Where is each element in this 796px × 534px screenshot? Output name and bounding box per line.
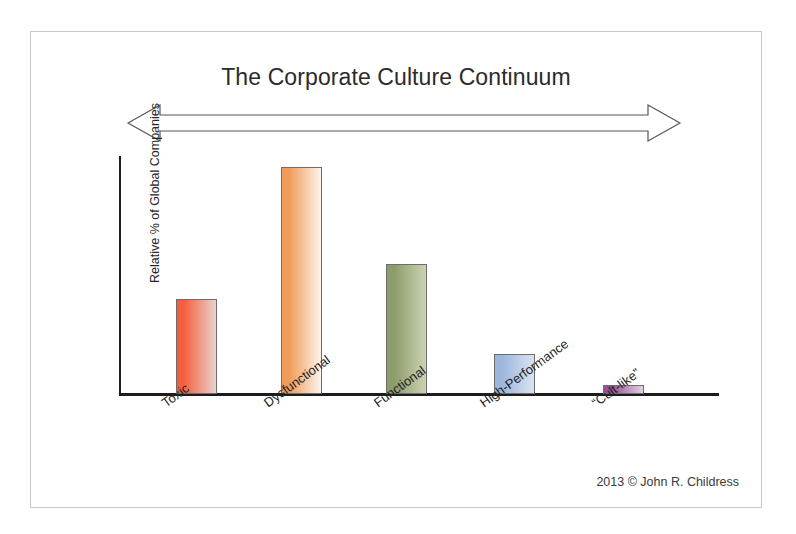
plot-area: Relative % of Global Companies	[119, 156, 719, 394]
chart-title: The Corporate Culture Continuum	[31, 64, 761, 91]
slide-frame: The Corporate Culture Continuum Relative…	[30, 31, 762, 508]
bars-layer	[119, 156, 719, 394]
x-axis-labels: ToxicDysfunctionalFunctionalHigh-Perform…	[119, 398, 739, 508]
double-headed-continuum-arrow	[126, 102, 682, 144]
credit-line: 2013 © John R. Childress	[596, 475, 739, 489]
